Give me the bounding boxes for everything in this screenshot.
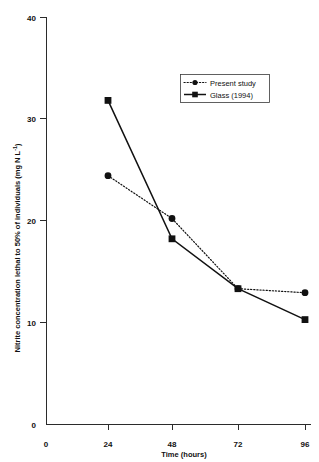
legend-label-present-study: Present study bbox=[210, 79, 256, 88]
x-tick-label-0: 0 bbox=[44, 440, 49, 449]
y-axis-title: Nitrite concentration lethal to 50% of i… bbox=[12, 143, 22, 353]
x-tick-label-96: 96 bbox=[301, 440, 310, 449]
line-chart: 40 30 20 10 0 0 24 48 72 96 Time (hours)… bbox=[0, 0, 319, 462]
data-point-glass-1994-96h bbox=[302, 316, 309, 323]
x-tick-label-24: 24 bbox=[104, 440, 113, 449]
x-tick-label-48: 48 bbox=[168, 440, 177, 449]
legend: Present study Glass (1994) bbox=[181, 75, 270, 103]
x-axis-title: Time (hours) bbox=[161, 450, 207, 459]
data-point-present-study-24h bbox=[105, 172, 112, 179]
y-tick-label-40: 40 bbox=[27, 14, 36, 23]
y-tick-label-30: 30 bbox=[27, 115, 36, 124]
y-tick-label-20: 20 bbox=[27, 217, 36, 226]
data-point-present-study-72h bbox=[235, 285, 242, 292]
data-point-present-study-96h bbox=[302, 289, 309, 296]
legend-marker-circle-icon bbox=[192, 80, 197, 85]
y-axis-title-tail: ) bbox=[13, 143, 22, 146]
data-point-present-study-48h bbox=[169, 215, 176, 222]
data-point-glass-1994-48h bbox=[169, 235, 176, 242]
series-line-present-study bbox=[108, 176, 305, 293]
series-line-glass-1994 bbox=[108, 100, 305, 319]
data-point-glass-1994-24h bbox=[105, 97, 112, 104]
legend-label-glass-1994: Glass (1994) bbox=[210, 91, 253, 100]
y-tick-label-0: 0 bbox=[32, 421, 37, 430]
y-tick-label-10: 10 bbox=[27, 319, 36, 328]
x-tick-label-72: 72 bbox=[234, 440, 243, 449]
legend-marker-square-icon bbox=[192, 92, 198, 98]
y-axis-title-main: Nitrite concentration lethal to 50% of i… bbox=[13, 150, 22, 352]
figure-container: 40 30 20 10 0 0 24 48 72 96 Time (hours)… bbox=[0, 0, 319, 462]
